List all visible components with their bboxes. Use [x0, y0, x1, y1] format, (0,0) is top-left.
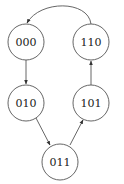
state-diagram: 000 110 010 101 011: [0, 0, 124, 184]
edge-011-to-101: [70, 120, 83, 145]
node-label: 110: [81, 36, 102, 49]
node-label: 011: [50, 156, 71, 169]
state-node-110: 110: [73, 24, 109, 60]
node-label: 010: [16, 97, 37, 110]
edge-010-to-011: [36, 118, 50, 145]
edge-110-to-000: [27, 6, 91, 24]
node-label: 000: [16, 36, 37, 49]
state-node-011: 011: [42, 144, 78, 180]
node-label: 101: [81, 97, 102, 110]
state-node-000: 000: [8, 24, 44, 60]
state-node-010: 010: [8, 85, 44, 121]
state-node-101: 101: [73, 85, 109, 121]
